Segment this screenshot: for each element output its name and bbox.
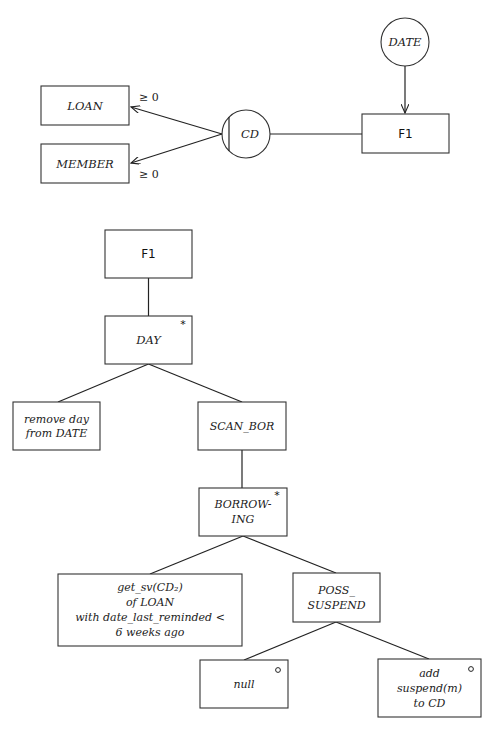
loan-entity[interactable]: LOAN (41, 86, 129, 125)
node-add-suspend-line3: to CD (414, 697, 446, 710)
edge-day-remove (58, 364, 149, 402)
edge-poss-null (244, 622, 336, 660)
date-store[interactable]: DATE (381, 18, 429, 66)
node-poss-suspend[interactable]: POSS_ SUSPEND (293, 573, 380, 622)
node-get-sv-line1: get_sv(CD₂) (117, 581, 183, 594)
node-remove-day-line2: from DATE (25, 427, 87, 440)
member-entity[interactable]: MEMBER (41, 144, 129, 183)
member-label: MEMBER (55, 157, 114, 171)
edge-borrowing-getsv (150, 536, 243, 574)
node-remove-day-line1: remove day (24, 413, 90, 426)
node-day[interactable]: DAY * (105, 316, 192, 364)
cd-to-loan-arrow (131, 107, 222, 134)
node-borrowing-line1: BORROW- (213, 498, 271, 511)
node-poss-suspend-box (293, 573, 380, 622)
node-remove-day[interactable]: remove day from DATE (13, 402, 100, 450)
loan-label: LOAN (66, 99, 103, 113)
node-null[interactable]: null (200, 660, 288, 708)
node-borrowing[interactable]: BORROW- ING * (199, 488, 287, 536)
diagram-canvas: DATE F1 CD LOAN ≥ 0 MEMBER ≥ 0 (0, 0, 500, 731)
node-get-sv-line4: 6 weeks ago (116, 626, 185, 639)
cd-store[interactable]: CD (222, 110, 270, 158)
f1-process[interactable]: F1 (362, 114, 449, 153)
node-borrowing-line2: ING (231, 513, 255, 526)
node-get-sv-line2: of LOAN (126, 596, 174, 609)
node-f1-label: F1 (141, 247, 156, 261)
node-f1[interactable]: F1 (105, 230, 192, 278)
node-get-sv[interactable]: get_sv(CD₂) of LOAN with date_last_remin… (58, 574, 242, 646)
node-scan-bor[interactable]: SCAN_BOR (198, 402, 286, 450)
node-add-suspend-line1: add (419, 667, 440, 680)
member-cardinality: ≥ 0 (139, 168, 159, 181)
structure-diagram: F1 DAY * remove day from DATE SCAN_BOR B… (13, 230, 481, 717)
loan-cardinality: ≥ 0 (139, 91, 159, 104)
iteration-marker: * (274, 489, 280, 502)
cd-label: CD (241, 127, 259, 141)
node-poss-suspend-line1: POSS_ (317, 584, 355, 597)
edge-borrowing-poss (243, 536, 336, 573)
date-label: DATE (388, 35, 423, 49)
cd-to-member-arrow (131, 134, 222, 163)
node-add-suspend[interactable]: add suspend(m) to CD (378, 659, 481, 717)
node-day-label: DAY (135, 333, 162, 347)
context-diagram: DATE F1 CD LOAN ≥ 0 MEMBER ≥ 0 (41, 18, 449, 183)
node-remove-day-box (13, 402, 100, 450)
node-scan-bor-label: SCAN_BOR (210, 420, 275, 433)
edge-poss-add (336, 622, 429, 659)
node-null-label: null (233, 678, 255, 691)
node-poss-suspend-line2: SUSPEND (307, 599, 365, 612)
node-add-suspend-line2: suspend(m) (397, 682, 462, 695)
edge-day-scan (149, 364, 243, 402)
f1-label: F1 (398, 127, 413, 141)
iteration-marker: * (180, 318, 186, 331)
node-get-sv-line3: with date_last_reminded < (75, 611, 225, 624)
